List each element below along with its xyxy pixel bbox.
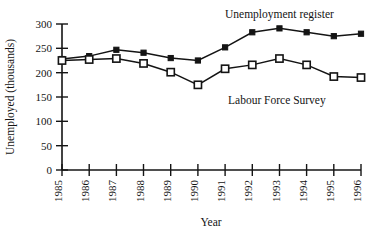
x-tick-label: 1993: [270, 180, 282, 203]
data-point-marker: [357, 74, 364, 81]
chart-canvas: 300 250 200 150 100 50 0 Unemployed (tho…: [0, 0, 375, 231]
y-tick-label: 250: [36, 42, 53, 54]
x-tick-label: 1992: [242, 180, 254, 202]
y-tick-label: 0: [47, 164, 53, 176]
series-polyline: [62, 28, 361, 60]
series-label-unemployment-register: Unemployment register: [225, 8, 334, 21]
data-point-marker: [222, 45, 227, 50]
data-point-marker: [140, 60, 147, 67]
y-tick-label: 150: [36, 91, 53, 103]
data-point-marker: [221, 65, 228, 72]
data-point-marker: [330, 73, 337, 80]
data-point-marker: [250, 30, 255, 35]
y-tick-label: 100: [36, 115, 53, 127]
x-tick-label: 1988: [134, 180, 146, 203]
data-point-marker: [141, 50, 146, 55]
series-markers-labour-force-survey: [58, 55, 364, 88]
x-tick-label: 1990: [188, 180, 200, 203]
data-point-marker: [86, 56, 93, 63]
x-tick-label: 1994: [297, 180, 309, 203]
x-tick-label: 1995: [324, 180, 336, 203]
data-point-marker: [113, 55, 120, 62]
series-line-unemployment-register: [62, 28, 361, 60]
y-tick-label: 200: [36, 67, 53, 79]
data-point-marker: [358, 31, 363, 36]
x-tick-label: 1991: [215, 180, 227, 202]
y-axis-tick-labels: 300 250 200 150 100 50 0: [36, 18, 53, 176]
series-markers-unemployment-register: [59, 26, 363, 63]
data-point-marker: [304, 30, 309, 35]
x-tick-label: 1989: [161, 180, 173, 203]
data-point-marker: [168, 55, 173, 60]
data-point-marker: [58, 57, 65, 64]
x-tick-label: 1987: [106, 180, 118, 203]
data-point-marker: [331, 34, 336, 39]
data-point-marker: [195, 58, 200, 63]
series-line-labour-force-survey: [62, 59, 361, 85]
y-tick-label: 300: [36, 18, 53, 30]
data-point-marker: [114, 47, 119, 52]
series-polyline: [62, 59, 361, 85]
x-tick-label: 1986: [79, 180, 91, 203]
data-point-marker: [276, 55, 283, 62]
x-axis-tick-labels: 1985 1986 1987 1988 1989 1990 1991 1992 …: [52, 180, 363, 203]
y-axis-title: Unemployed (thousands): [4, 39, 17, 155]
x-tick-label: 1996: [351, 180, 363, 203]
data-point-marker: [303, 61, 310, 68]
x-axis-title: Year: [200, 216, 221, 228]
data-point-marker: [249, 61, 256, 68]
y-tick-label: 50: [41, 140, 53, 152]
data-point-marker: [277, 26, 282, 31]
x-tick-label: 1985: [52, 180, 64, 203]
data-point-marker: [167, 69, 174, 76]
unemployment-line-chart: 300 250 200 150 100 50 0 Unemployed (tho…: [0, 0, 375, 231]
data-point-marker: [194, 81, 201, 88]
series-label-labour-force-survey: Labour Force Survey: [228, 94, 326, 107]
